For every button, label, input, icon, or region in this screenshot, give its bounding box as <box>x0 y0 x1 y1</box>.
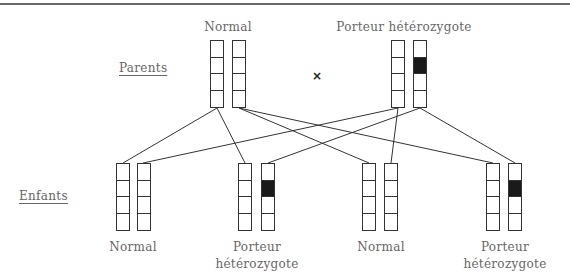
child-4-chromosome-1 <box>486 163 500 231</box>
mutated-segment <box>509 181 521 198</box>
child-1-chromosome-1 <box>116 163 130 231</box>
child-3-chromosome-1 <box>362 163 376 231</box>
parents-label: Parents <box>119 61 167 75</box>
parent-normal-chromosome-1 <box>210 40 224 108</box>
cross-symbol: × <box>312 69 322 83</box>
child-4-label-line2: hétérozygote <box>463 257 546 271</box>
children-label: Enfants <box>19 189 68 203</box>
parent-carrier-label: Porteur hétérozygote <box>336 20 471 34</box>
mutated-segment <box>414 58 426 75</box>
child-1-chromosome-2 <box>137 163 151 231</box>
child-1-label: Normal <box>109 240 157 254</box>
mutated-segment <box>262 181 274 198</box>
child-2-label-line1: Porteur <box>233 240 281 254</box>
child-3-chromosome-2 <box>384 163 398 231</box>
child-2-label-line2: hétérozygote <box>215 257 298 271</box>
parent-carrier-chromosome-1 <box>391 40 405 108</box>
parent-normal-label: Normal <box>204 20 252 34</box>
child-4-chromosome-2 <box>508 163 522 231</box>
child-3-label: Normal <box>357 240 405 254</box>
child-4-label-line1: Porteur <box>481 240 529 254</box>
parent-carrier-chromosome-2 <box>413 40 427 108</box>
parent-normal-chromosome-2 <box>232 40 246 108</box>
child-2-chromosome-2 <box>261 163 275 231</box>
inheritance-lines <box>0 0 570 280</box>
child-2-chromosome-1 <box>238 163 252 231</box>
